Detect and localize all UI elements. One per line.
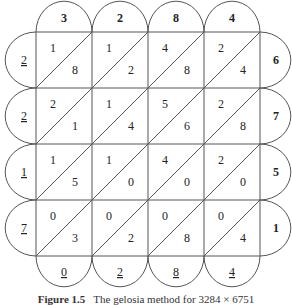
cell-ones-digit: 0 <box>184 175 190 189</box>
cell-tens-digit: 1 <box>106 41 112 55</box>
cell-tens-digit: 4 <box>162 41 168 55</box>
cell-diagonal <box>148 88 204 144</box>
figure-caption: Figure 1.5 The gelosia method for 3284 ×… <box>0 293 292 305</box>
top-factor-digit: 8 <box>173 11 179 25</box>
cell-tens-digit: 2 <box>218 41 224 55</box>
cell-diagonal <box>204 88 260 144</box>
cell-ones-digit: 2 <box>128 231 134 245</box>
cell-diagonal <box>148 144 204 200</box>
cell-tens-digit: 0 <box>218 209 224 223</box>
cell-tens-digit: 5 <box>162 97 168 111</box>
top-factor-digit: 3 <box>61 11 67 25</box>
cell-diagonal <box>148 200 204 256</box>
caption-label: Figure 1.5 <box>38 293 85 305</box>
left-result-digit: 2 <box>21 53 27 67</box>
cell-ones-digit: 6 <box>184 119 190 133</box>
cell-tens-digit: 1 <box>50 153 56 167</box>
cell-tens-digit: 0 <box>162 209 168 223</box>
cell-diagonal <box>36 32 92 88</box>
bottom-result-digit: 4 <box>229 265 235 279</box>
cell-ones-digit: 8 <box>184 231 190 245</box>
top-factor-digit: 4 <box>229 11 235 25</box>
cell-diagonal <box>204 144 260 200</box>
left-result-digit: 7 <box>21 221 27 235</box>
cell-diagonal <box>204 200 260 256</box>
bottom-result-digit: 2 <box>117 265 123 279</box>
cell-ones-digit: 4 <box>240 231 246 245</box>
bottom-result-digit: 8 <box>173 265 179 279</box>
cell-diagonal <box>204 32 260 88</box>
cell-diagonal <box>92 144 148 200</box>
cell-ones-digit: 1 <box>72 119 78 133</box>
right-factor-digit: 5 <box>273 165 279 179</box>
cell-tens-digit: 0 <box>50 209 56 223</box>
cell-tens-digit: 2 <box>50 97 56 111</box>
cell-ones-digit: 3 <box>72 231 78 245</box>
right-factor-digit: 1 <box>273 221 279 235</box>
cell-diagonal <box>148 32 204 88</box>
top-factor-digit: 2 <box>117 11 123 25</box>
cell-tens-digit: 2 <box>218 153 224 167</box>
right-factor-digit: 6 <box>273 53 279 67</box>
bottom-result-digit: 0 <box>61 265 67 279</box>
cell-tens-digit: 1 <box>106 97 112 111</box>
cell-diagonal <box>36 88 92 144</box>
cell-ones-digit: 0 <box>128 175 134 189</box>
cell-tens-digit: 1 <box>106 153 112 167</box>
caption-text: The gelosia method for 3284 × 6751 <box>93 293 254 305</box>
cell-tens-digit: 0 <box>106 209 112 223</box>
cell-ones-digit: 4 <box>240 63 246 77</box>
cell-ones-digit: 4 <box>128 119 134 133</box>
cell-diagonal <box>36 144 92 200</box>
cell-diagonal <box>36 200 92 256</box>
cell-ones-digit: 8 <box>240 119 246 133</box>
left-result-digit: 2 <box>21 109 27 123</box>
cell-ones-digit: 2 <box>128 63 134 77</box>
cell-ones-digit: 8 <box>184 63 190 77</box>
cell-tens-digit: 4 <box>162 153 168 167</box>
cell-diagonal <box>92 88 148 144</box>
cell-diagonal <box>92 32 148 88</box>
cell-tens-digit: 1 <box>50 41 56 55</box>
right-factor-digit: 7 <box>273 109 279 123</box>
cell-ones-digit: 5 <box>72 175 78 189</box>
cell-tens-digit: 2 <box>218 97 224 111</box>
cell-ones-digit: 8 <box>72 63 78 77</box>
cell-diagonal <box>92 200 148 256</box>
cell-ones-digit: 0 <box>240 175 246 189</box>
left-result-digit: 1 <box>21 165 27 179</box>
